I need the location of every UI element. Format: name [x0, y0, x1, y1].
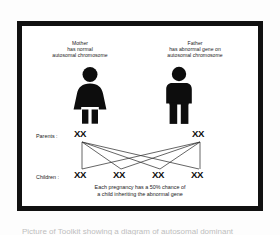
summary-caption: Each pregnancy has a 50% chance of a chi… — [22, 184, 258, 198]
child-genotype-1: XX — [74, 170, 86, 180]
father-caption-line-3: autosomal chromosome — [140, 52, 250, 58]
summary-line-2: a child inheriting the abnormal gene — [22, 191, 258, 198]
female-figure-icon — [69, 66, 111, 128]
parents-row-label: Parents : — [36, 133, 58, 139]
below-frame-clipped-caption: Picture of Toolkit showing a diagram of … — [22, 227, 262, 235]
parent-genotype-father: XX — [192, 129, 204, 139]
child-genotype-2: XX — [113, 170, 125, 180]
children-row-label: Children : — [36, 174, 59, 180]
father-caption: Father has abnormal gene on autosomal ch… — [140, 40, 250, 59]
child-genotype-4: XX — [191, 170, 203, 180]
male-figure-icon — [160, 66, 198, 128]
figure-canvas: Mother has normal autosomal chromosome F… — [22, 26, 258, 206]
mother-caption: Mother has normal autosomal chromosome — [30, 40, 130, 59]
figure-frame-border: Mother has normal autosomal chromosome F… — [17, 21, 263, 211]
parent-genotype-mother: XX — [74, 129, 86, 139]
summary-line-1: Each pregnancy has a 50% chance of — [22, 184, 258, 191]
child-genotype-3: XX — [152, 170, 164, 180]
mother-caption-line-3: autosomal chromosome — [30, 52, 130, 58]
figure-page: Mother has normal autosomal chromosome F… — [0, 0, 280, 235]
